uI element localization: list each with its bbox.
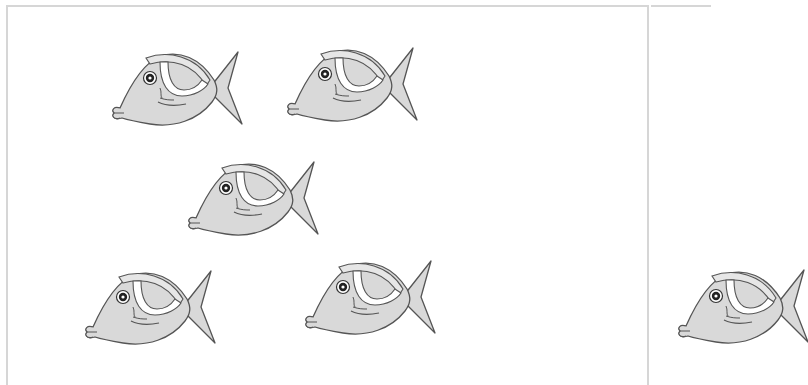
fish-icon <box>186 160 318 236</box>
fish-icon <box>83 269 215 345</box>
fish-5 <box>303 259 435 335</box>
fish-icon <box>285 46 417 122</box>
fish-4 <box>83 269 215 345</box>
fish-partial <box>676 268 808 344</box>
fish-3 <box>186 160 318 236</box>
fish-icon <box>110 50 242 126</box>
fish-icon <box>676 268 808 344</box>
fish-1 <box>110 50 242 126</box>
fish-icon <box>303 259 435 335</box>
fish-2 <box>285 46 417 122</box>
